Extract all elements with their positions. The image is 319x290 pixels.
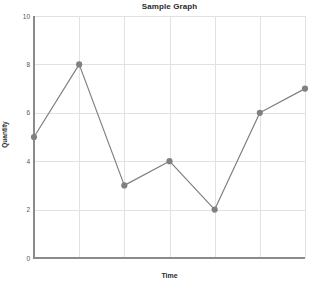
data-point-marker [121, 182, 127, 188]
x-axis-title: Time [34, 272, 305, 279]
data-point-marker [76, 61, 82, 67]
series-markers [31, 61, 308, 212]
y-axis-title: Quantity [1, 105, 8, 165]
line-chart: Sample Graph 0246810 Time Quantity [0, 0, 319, 290]
series-line [34, 64, 305, 209]
data-point-marker [302, 86, 308, 92]
data-series [0, 0, 319, 290]
data-point-marker [212, 207, 218, 213]
data-point-marker [257, 110, 263, 116]
data-point-marker [166, 158, 172, 164]
data-point-marker [31, 134, 37, 140]
